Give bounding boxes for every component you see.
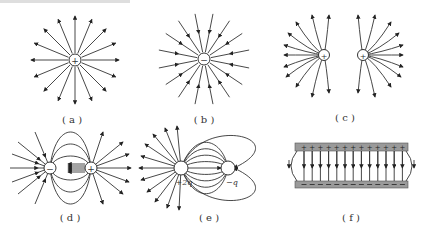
svg-text:−: − <box>46 164 54 174</box>
svg-text:+: + <box>350 144 356 152</box>
panel-f-plates: +++++++++++++ <box>289 143 414 188</box>
charge-b: − <box>198 53 210 65</box>
svg-text:+: + <box>399 144 405 152</box>
svg-text:+: + <box>317 144 323 152</box>
caption-d: ( d ) <box>50 212 90 223</box>
svg-text:−: − <box>200 55 208 65</box>
svg-text:+: + <box>71 56 79 66</box>
charges-c: + + <box>319 50 369 61</box>
caption-e: ( e ) <box>189 212 229 223</box>
svg-text:+: + <box>301 144 307 152</box>
svg-text:−q: −q <box>226 178 238 187</box>
svg-text:+: + <box>321 52 328 61</box>
panel-e-lines <box>139 126 256 210</box>
svg-text:+: + <box>358 144 364 152</box>
svg-text:+: + <box>375 144 381 152</box>
svg-text:+: + <box>326 144 332 152</box>
svg-text:+: + <box>334 144 340 152</box>
svg-text:+: + <box>342 144 348 152</box>
svg-text:+: + <box>309 144 315 152</box>
panel-d-lines <box>10 132 131 204</box>
svg-text:+: + <box>367 144 373 152</box>
svg-text:+: + <box>383 144 389 152</box>
caption-c: ( c ) <box>325 112 365 123</box>
svg-text:+: + <box>391 144 397 152</box>
caption-f: ( f ) <box>331 212 371 223</box>
svg-text:+2q: +2q <box>176 178 193 187</box>
caption-a: ( a ) <box>52 114 92 125</box>
panel-c-lines <box>284 15 403 97</box>
svg-text:+: + <box>360 52 367 61</box>
charge-a: + <box>69 54 81 66</box>
caption-b: ( b ) <box>184 114 224 125</box>
svg-text:+: + <box>87 164 95 174</box>
